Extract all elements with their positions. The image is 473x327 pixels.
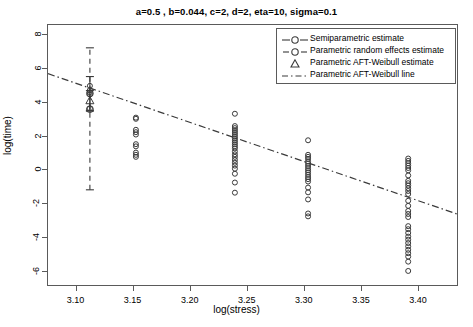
data-marker-circle [232,171,237,176]
data-marker-circle [406,198,411,203]
y-tick-label: -4 [31,233,41,241]
chart-container: a=0.5 , b=0.044, c=2, d=2, eta=10, sigma… [0,0,473,327]
legend-symbol-circle-icon [280,44,310,56]
legend-item-label: Parametric random effects estimate [310,44,444,56]
legend-item-label: Parametric AFT-Weibull estimate [310,56,434,68]
x-tick-label: 3.15 [124,295,142,305]
chart-title: a=0.5 , b=0.044, c=2, d=2, eta=10, sigma… [0,6,473,17]
data-marker-circle [232,180,237,185]
x-tick-label: 3.30 [295,295,313,305]
data-marker-circle [232,190,237,195]
y-tick-label: 2 [32,133,42,138]
data-marker-circle [406,173,411,178]
legend-item[interactable]: Semiparametric estimate [280,32,451,44]
data-marker-circle [232,111,237,116]
data-marker-circle [306,138,311,143]
data-marker-circle [306,197,311,202]
legend-item-label: Semiparametric estimate [310,32,404,44]
data-marker-circle [406,268,411,273]
fit-line [48,74,459,215]
x-tick-label: 3.25 [238,295,256,305]
x-axis-title: log(stress) [0,304,473,315]
series-observations [87,83,410,273]
legend-item[interactable]: Parametric random effects estimate [280,44,451,56]
data-marker-circle [406,254,411,259]
legend-symbol-circle-icon [280,32,310,44]
data-marker-circle [406,215,411,220]
y-tick-label: -6 [31,267,41,275]
legend-item[interactable]: Parametric AFT-Weibull estimate [280,56,451,68]
y-tick-label: -2 [31,199,41,207]
x-tick-label: 3.20 [181,295,199,305]
x-tick-label: 3.10 [67,295,85,305]
y-axis-title: log(time) [2,116,13,155]
series-parametric-random-effects-estimate [86,48,94,190]
x-tick-label: 3.35 [352,295,370,305]
data-marker-circle [406,259,411,264]
legend: Semiparametric estimateParametric random… [276,28,456,84]
x-tick-label: 3.40 [409,295,427,305]
y-tick-label: 0 [32,167,42,172]
data-marker-circle [406,203,411,208]
legend-symbol-triangle-icon [280,56,310,68]
data-marker-circle [406,192,411,197]
y-tick-label: 6 [32,65,42,70]
data-marker-circle [232,166,237,171]
legend-symbol-none-icon [280,68,310,80]
y-tick-label: 8 [32,32,42,37]
legend-item[interactable]: Parametric AFT-Weibull line [280,68,451,80]
legend-item-label: Parametric AFT-Weibull line [310,68,415,80]
y-tick-label: 4 [32,99,42,104]
